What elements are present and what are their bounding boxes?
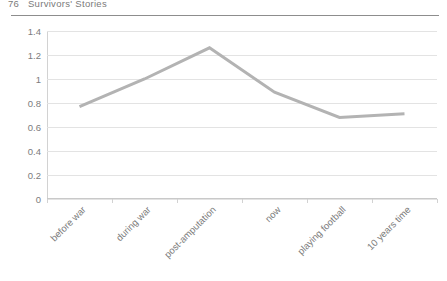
x-axis-tick [372, 199, 373, 203]
x-axis-category-label: before war [48, 204, 88, 244]
x-axis-tick [177, 199, 178, 203]
y-axis-tick-label: 0.8 [28, 98, 41, 109]
y-axis-tick-label: 0 [36, 194, 41, 205]
y-axis-tick-label: 1 [36, 74, 41, 85]
x-axis-tick [47, 199, 48, 203]
x-axis-category-label: playing football [295, 204, 348, 257]
x-axis-tick [307, 199, 308, 203]
x-axis-category-label: now [262, 204, 282, 224]
x-axis-category-label: 10 years time [364, 204, 412, 252]
line-chart: 00.20.40.60.811.21.4 before warduring wa… [0, 22, 447, 281]
y-axis-tick-label: 1.2 [28, 50, 41, 61]
header-divider-rule [11, 15, 439, 16]
page-running-head: 76 Survivors' Stories [8, 0, 107, 10]
running-title: Survivors' Stories [28, 0, 107, 9]
y-axis-tick-label: 0.2 [28, 170, 41, 181]
series-line [47, 31, 437, 199]
x-axis-category-label: post-amputation [161, 204, 217, 260]
y-axis-tick-label: 1.4 [28, 26, 41, 37]
x-axis-category-labels: before warduring warpost-amputationnowpl… [47, 204, 437, 281]
x-axis-category-label: during war [113, 204, 152, 243]
plot-area: 00.20.40.60.811.21.4 [47, 31, 437, 199]
y-axis-tick-label: 0.6 [28, 122, 41, 133]
page-folio-number: 76 [8, 0, 19, 9]
x-axis-tick [242, 199, 243, 203]
x-axis-tick [437, 199, 438, 203]
y-axis-tick-label: 0.4 [28, 146, 41, 157]
x-axis-tick [112, 199, 113, 203]
